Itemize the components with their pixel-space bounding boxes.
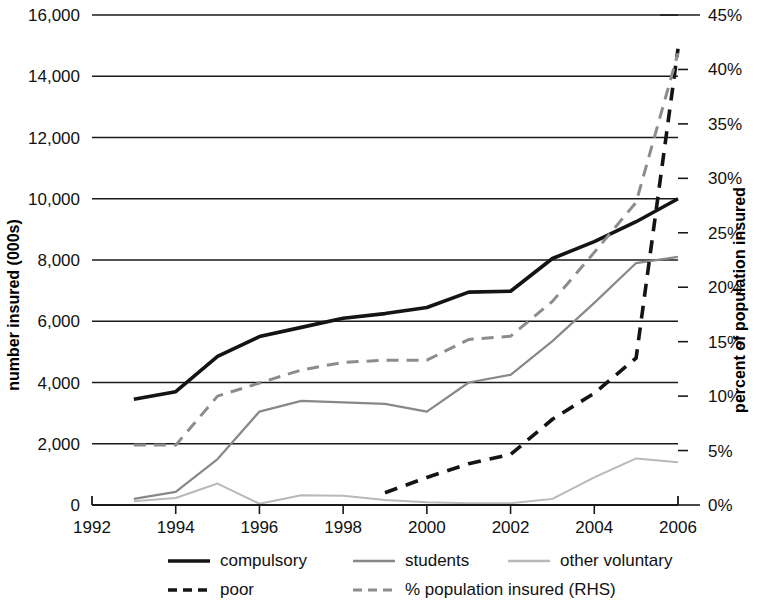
right-axis-tick-label: 45% [708, 6, 742, 25]
x-axis-tick-label: 1994 [157, 518, 195, 537]
x-axis-tick-label: 1992 [73, 518, 111, 537]
left-axis-tick-labels: 02,0004,0006,0008,00010,00012,00014,0001… [28, 6, 80, 515]
left-axis-tick-label: 6,000 [37, 312, 80, 331]
right-axis-tick-label: 0% [708, 496, 733, 515]
legend-label-other-voluntary: other voluntary [560, 551, 673, 570]
x-axis-tick-label: 2000 [408, 518, 446, 537]
x-axis-tick-label: 2004 [575, 518, 613, 537]
right-axis-title: percent of population insured [731, 187, 748, 413]
left-axis-tick-label: 2,000 [37, 435, 80, 454]
series-line-poor [385, 49, 678, 493]
gridlines [92, 15, 678, 444]
legend-label-poor: poor [220, 580, 254, 599]
series-line-compulsory [134, 199, 678, 400]
x-axis-tick-labels: 19921994199619982000200220042006 [73, 518, 697, 537]
series-line-students [134, 257, 678, 499]
left-axis-tick-label: 14,000 [28, 67, 80, 86]
left-axis-tick-label: 8,000 [37, 251, 80, 270]
left-axis-tick-label: 4,000 [37, 374, 80, 393]
left-axis-tick-label: 10,000 [28, 190, 80, 209]
left-axis-tick-label: 16,000 [28, 6, 80, 25]
series-line-other-voluntary [134, 458, 678, 503]
left-axis-tick-label: 12,000 [28, 129, 80, 148]
left-axis-tick-label: 0 [71, 496, 80, 515]
x-axis [92, 496, 678, 514]
series-line-population-insured-rhs [134, 53, 678, 445]
data-series [134, 49, 678, 504]
x-axis-tick-label: 1998 [324, 518, 362, 537]
legend-label-compulsory: compulsory [220, 551, 307, 570]
right-axis-tick-label: 5% [708, 442, 733, 461]
chart-container: 02,0004,0006,0008,00010,00012,00014,0001… [0, 0, 761, 611]
right-axis-tick-label: 40% [708, 60, 742, 79]
chart-legend: compulsorystudentsother voluntarypoor% p… [168, 551, 673, 599]
x-axis-tick-label: 2006 [659, 518, 697, 537]
insurance-coverage-line-chart: 02,0004,0006,0008,00010,00012,00014,0001… [0, 0, 761, 611]
right-axis-tick-label: 30% [708, 169, 742, 188]
left-axis-title: number insured (000s) [5, 219, 22, 391]
x-axis-tick-label: 2002 [492, 518, 530, 537]
legend-label-population-insured-rhs: % population insured (RHS) [405, 580, 616, 599]
x-axis-tick-label: 1996 [241, 518, 279, 537]
legend-label-students: students [405, 551, 469, 570]
right-axis-tick-label: 35% [708, 115, 742, 134]
